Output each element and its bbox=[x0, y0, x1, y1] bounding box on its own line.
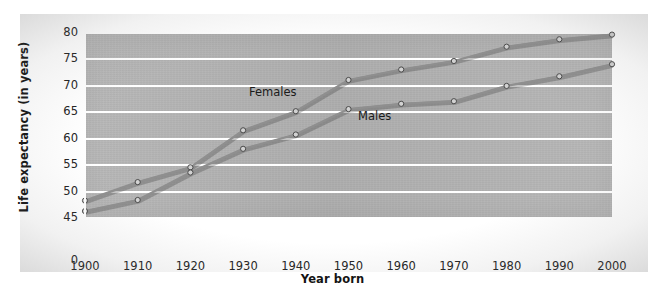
data-point-marker bbox=[399, 101, 404, 106]
data-point-marker bbox=[188, 170, 193, 175]
x-tick-label: 1990 bbox=[536, 259, 582, 273]
x-tick-label: 1920 bbox=[167, 259, 213, 273]
series-line-shadow bbox=[86, 66, 613, 213]
y-tick-label: 50 bbox=[48, 186, 78, 197]
data-point-marker bbox=[451, 99, 456, 104]
y-tick-label: 80 bbox=[48, 27, 78, 38]
data-point-marker bbox=[346, 77, 351, 82]
data-point-marker bbox=[557, 37, 562, 42]
x-tick-label: 1960 bbox=[378, 259, 424, 273]
series-line-females bbox=[85, 35, 612, 201]
x-tick-label: 2000 bbox=[589, 259, 635, 273]
x-tick bbox=[349, 250, 350, 256]
y-tick-label: 60 bbox=[48, 133, 78, 144]
y-tick-label: 45 bbox=[48, 212, 78, 223]
series-label-females: Females bbox=[249, 85, 297, 99]
data-point-marker bbox=[504, 44, 509, 49]
data-point-marker bbox=[557, 74, 562, 79]
x-tick bbox=[190, 250, 191, 256]
data-point-marker bbox=[135, 197, 140, 202]
x-tick bbox=[296, 250, 297, 256]
data-point-marker bbox=[609, 62, 614, 67]
y-axis-tick-labels: 04550556065707580 bbox=[46, 0, 78, 286]
x-tick bbox=[85, 250, 86, 256]
data-point-marker bbox=[399, 67, 404, 72]
data-point-marker bbox=[293, 109, 298, 114]
y-tick-label: 65 bbox=[48, 106, 78, 117]
data-point-marker bbox=[135, 180, 140, 185]
x-tick-label: 1910 bbox=[115, 259, 161, 273]
x-tick-label: 1900 bbox=[62, 259, 108, 273]
x-tick bbox=[559, 250, 560, 256]
x-tick-label: 1970 bbox=[431, 259, 477, 273]
series-label-males: Males bbox=[358, 109, 391, 123]
x-tick-label: 1980 bbox=[484, 259, 530, 273]
y-tick-label: 55 bbox=[48, 159, 78, 170]
y-axis-title: Life expectancy (in years) bbox=[17, 37, 31, 217]
data-point-marker bbox=[293, 132, 298, 137]
data-point-marker bbox=[451, 58, 456, 63]
x-tick bbox=[401, 250, 402, 256]
data-point-marker bbox=[241, 128, 246, 133]
data-point-marker bbox=[609, 32, 614, 37]
y-tick-label: 75 bbox=[48, 53, 78, 64]
data-point-marker bbox=[346, 107, 351, 112]
x-tick bbox=[138, 250, 139, 256]
series-lines bbox=[85, 33, 612, 218]
x-tick bbox=[612, 250, 613, 256]
series-line-shadow bbox=[86, 36, 613, 202]
data-point-marker bbox=[188, 165, 193, 170]
plot-area bbox=[85, 33, 612, 218]
x-axis-title: Year born bbox=[0, 272, 665, 286]
data-point-marker bbox=[504, 83, 509, 88]
x-tick-label: 1930 bbox=[220, 259, 266, 273]
line-chart: 04550556065707580 1900191019201930194019… bbox=[0, 0, 665, 286]
x-tick-label: 1950 bbox=[326, 259, 372, 273]
data-point-marker bbox=[241, 146, 246, 151]
y-tick-label: 70 bbox=[48, 80, 78, 91]
x-tick bbox=[243, 250, 244, 256]
x-tick bbox=[454, 250, 455, 256]
chart-figure: 04550556065707580 1900191019201930194019… bbox=[0, 0, 665, 286]
x-tick-label: 1940 bbox=[273, 259, 319, 273]
axis-break-icon bbox=[77, 216, 95, 236]
x-tick bbox=[507, 250, 508, 256]
